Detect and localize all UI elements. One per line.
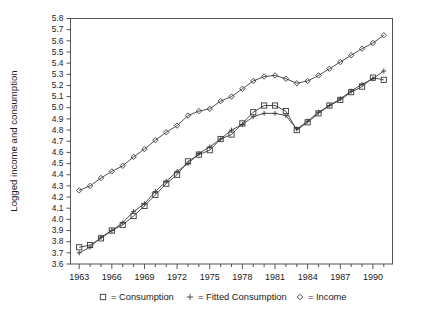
legend-label: = Consumption xyxy=(111,292,174,302)
y-tick-label: 4.3 xyxy=(52,181,64,191)
y-tick-label: 4.2 xyxy=(52,192,64,202)
data-point-plus xyxy=(273,111,278,116)
legend-item-consumption: = Consumption xyxy=(100,292,173,302)
legend-item-income: = Income xyxy=(297,292,346,302)
y-axis-title: Logged income and consumption xyxy=(8,70,19,211)
legend-label: = Income xyxy=(308,292,347,302)
y-tick-label: 3.8 xyxy=(52,236,64,246)
x-axis-ticks: 1963196619691972197519781981198419871990 xyxy=(69,264,384,282)
y-tick-label: 5.3 xyxy=(52,69,64,79)
y-tick-label: 3.6 xyxy=(52,259,64,269)
series-line xyxy=(79,35,384,190)
data-point-plus xyxy=(77,250,82,255)
y-axis-title-group: Logged income and consumption xyxy=(8,70,19,211)
y-tick-label: 5.8 xyxy=(52,13,64,23)
legend-item-fitted-consumption: = Fitted Consumption xyxy=(187,292,287,302)
x-tick-label: 1975 xyxy=(200,272,220,282)
y-tick-label: 4.5 xyxy=(52,158,64,168)
y-tick-label: 4.9 xyxy=(52,114,64,124)
y-tick-label: 4.7 xyxy=(52,136,64,146)
data-series-layer xyxy=(77,33,387,256)
y-tick-label: 3.9 xyxy=(52,225,64,235)
data-point-square xyxy=(100,294,105,299)
x-tick-label: 1972 xyxy=(167,272,187,282)
series-income xyxy=(77,33,387,194)
x-tick-label: 1984 xyxy=(298,272,318,282)
y-tick-label: 5.7 xyxy=(52,24,64,34)
y-tick-label: 5.1 xyxy=(52,91,64,101)
y-tick-label: 4.0 xyxy=(52,214,64,224)
series-line xyxy=(79,78,384,248)
y-tick-label: 5.4 xyxy=(52,58,64,68)
data-point-plus xyxy=(360,82,365,87)
x-tick-label: 1963 xyxy=(69,272,89,282)
data-point-diamond xyxy=(77,188,82,193)
x-tick-label: 1969 xyxy=(134,272,154,282)
y-axis-ticks: 3.63.73.83.94.04.14.24.34.44.54.64.74.84… xyxy=(52,13,71,269)
chart-legend: = Consumption= Fitted Consumption= Incom… xyxy=(100,292,346,302)
x-tick-label: 1981 xyxy=(265,272,285,282)
y-tick-label: 5.0 xyxy=(52,102,64,112)
y-tick-label: 5.6 xyxy=(52,36,64,46)
y-tick-label: 4.1 xyxy=(52,203,64,213)
y-tick-label: 4.4 xyxy=(52,169,64,179)
y-tick-label: 5.5 xyxy=(52,47,64,57)
x-tick-label: 1978 xyxy=(232,272,252,282)
chart-figure: Logged income and consumption 3.63.73.83… xyxy=(0,0,425,316)
chart-svg: Logged income and consumption 3.63.73.83… xyxy=(0,0,425,316)
y-tick-label: 4.6 xyxy=(52,147,64,157)
y-tick-label: 4.8 xyxy=(52,125,64,135)
data-point-plus xyxy=(262,111,267,116)
x-tick-label: 1966 xyxy=(102,272,122,282)
y-tick-label: 3.7 xyxy=(52,248,64,258)
data-point-plus xyxy=(187,294,193,300)
x-tick-label: 1990 xyxy=(363,272,383,282)
y-tick-label: 5.2 xyxy=(52,80,64,90)
x-tick-label: 1987 xyxy=(330,272,350,282)
data-point-diamond xyxy=(297,294,302,299)
legend-label: = Fitted Consumption xyxy=(198,292,287,302)
